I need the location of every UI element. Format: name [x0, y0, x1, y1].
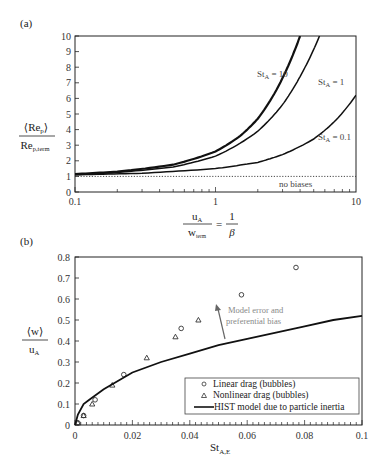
svg-text:Model error and: Model error and — [228, 305, 284, 315]
svg-text:10: 10 — [351, 196, 361, 207]
label-st-1: StA = 1 — [318, 77, 344, 88]
svg-text:1: 1 — [229, 210, 235, 222]
panel-a-y-label: ⟨Rep⟩ Rep,term — [19, 121, 55, 152]
svg-text:8: 8 — [66, 62, 71, 73]
svg-text:⟨w⟩: ⟨w⟩ — [27, 325, 44, 337]
panel-b-x-label: StA,E — [210, 441, 230, 456]
svg-text:0.04: 0.04 — [181, 430, 199, 441]
svg-text:0.1: 0.1 — [69, 196, 82, 207]
svg-text:0.4: 0.4 — [58, 336, 71, 347]
panel-b-label: (b) — [20, 235, 33, 248]
svg-text:3: 3 — [66, 140, 71, 151]
svg-text:β: β — [228, 226, 235, 238]
panel-b: (b) 00.10.20.30.40.50.60.70.800.020.040.… — [20, 235, 368, 456]
figure: (a) 0123456789100.1110 StA = 10 StA = 1 … — [0, 0, 381, 463]
svg-text:⟨Rep⟩: ⟨Rep⟩ — [24, 121, 48, 135]
svg-text:preferential bias: preferential bias — [226, 316, 281, 326]
svg-text:6: 6 — [66, 93, 71, 104]
svg-text:0.3: 0.3 — [58, 357, 71, 368]
svg-text:0.08: 0.08 — [296, 430, 314, 441]
linear-drag-point — [239, 293, 244, 298]
svg-text:9: 9 — [66, 46, 71, 57]
svg-text:uA: uA — [192, 210, 203, 223]
panel-b-y-label: ⟨w⟩ uA — [22, 325, 48, 356]
svg-text:Rep,term: Rep,term — [20, 139, 49, 152]
svg-text:0.6: 0.6 — [58, 294, 71, 305]
svg-text:1: 1 — [66, 171, 71, 182]
panel-a: (a) 0123456789100.1110 StA = 10 StA = 1 … — [19, 17, 361, 239]
svg-text:0.7: 0.7 — [58, 273, 71, 284]
svg-text:0.1: 0.1 — [356, 430, 369, 441]
svg-text:=: = — [216, 218, 222, 230]
arrow-shaft — [218, 309, 225, 339]
panel-a-label: (a) — [20, 17, 33, 30]
svg-text:0: 0 — [65, 420, 70, 431]
svg-text:1: 1 — [213, 196, 218, 207]
legend-linear: Linear drag (bubbles) — [213, 379, 295, 390]
panel-a-x-label: uA wterm = 1 β — [183, 210, 238, 239]
linear-drag-point — [93, 398, 98, 403]
nonlinear-drag-point — [144, 355, 149, 360]
nonlinear-drag-point — [173, 334, 178, 339]
svg-text:wterm: wterm — [188, 226, 207, 239]
svg-text:0.8: 0.8 — [58, 252, 71, 263]
svg-text:5: 5 — [66, 109, 71, 120]
svg-text:0.5: 0.5 — [58, 315, 71, 326]
svg-text:uA: uA — [29, 343, 40, 356]
curve-st-a-10 — [75, 36, 300, 174]
linear-drag-point — [179, 326, 184, 331]
svg-text:7: 7 — [66, 77, 71, 88]
svg-text:2: 2 — [66, 155, 71, 166]
svg-text:10: 10 — [61, 31, 71, 42]
linear-drag-point — [294, 265, 299, 270]
label-no-biases: no biases — [279, 179, 313, 189]
legend: Linear drag (bubbles) Nonlinear drag (bu… — [185, 378, 359, 414]
arrow-head-icon — [215, 304, 221, 311]
svg-text:0.1: 0.1 — [58, 399, 71, 410]
curve-st-a-0-1 — [75, 95, 356, 175]
legend-hist: HIST model due to particle inertia — [214, 402, 345, 412]
nonlinear-drag-point — [196, 317, 201, 322]
legend-nonlinear: Nonlinear drag (bubbles) — [213, 390, 309, 401]
svg-text:0.2: 0.2 — [58, 378, 71, 389]
label-st-10: StA = 10 — [257, 69, 288, 80]
panel-a-axes: 0123456789100.1110 — [61, 31, 361, 208]
label-st-0-1: StA = 0.1 — [318, 132, 351, 143]
panel-a-curves — [75, 36, 356, 176]
svg-text:0: 0 — [73, 430, 78, 441]
svg-text:0.06: 0.06 — [238, 430, 256, 441]
svg-text:4: 4 — [66, 124, 71, 135]
svg-text:0.02: 0.02 — [124, 430, 142, 441]
